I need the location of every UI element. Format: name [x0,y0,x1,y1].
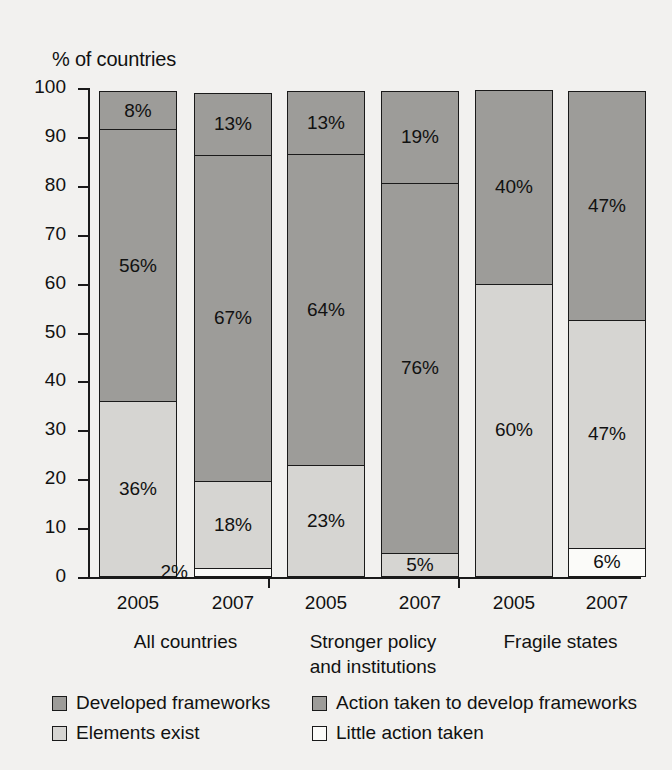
legend-row: Developed frameworks Action taken to dev… [52,692,652,722]
y-axis-tick-mark [78,577,89,579]
legend-item-developed-frameworks[interactable]: Developed frameworks [52,692,312,714]
bar-segment-label: 13% [195,113,271,135]
bar-all-countries-2007[interactable]: 2%18%67%13% [194,88,272,577]
y-axis-tick-mark [78,186,89,188]
bar-segment-label: 60% [476,419,552,441]
bar-segment-label: 76% [382,357,458,379]
legend-label: Little action taken [336,722,484,744]
x-axis-label-all-countries-2005: 2005 [99,592,177,614]
y-axis-tick-mark [78,137,89,139]
y-axis-tick-label: 50 [6,321,66,343]
legend-swatch-icon [312,696,327,711]
bar-segment-label: 8% [100,100,176,122]
bar-fragile-states-2005[interactable]: 60%40% [475,88,553,577]
plot-area: 36%56%8%2%18%67%13%23%64%13%5%76%19%60%4… [97,88,638,577]
y-axis-tick-label: 100 [6,76,66,98]
bar-segment-label: 47% [569,423,645,445]
bar-all-countries-2005[interactable]: 36%56%8% [99,88,177,577]
bar-segment[interactable]: 5% [381,553,459,577]
bar-segment[interactable]: 64% [287,153,365,466]
legend-item-little-action-taken[interactable]: Little action taken [312,722,484,744]
x-axis-tick-mark [458,579,460,588]
x-axis-group-label: Fragile states [451,629,671,654]
bar-segment-label: 67% [195,307,271,329]
x-axis-label-fragile-states-2007: 2007 [568,592,646,614]
x-axis-label-fragile-states-2005: 2005 [475,592,553,614]
bar-segment[interactable]: 36% [99,401,177,577]
x-axis-tick-mark [268,579,270,588]
y-axis-tick-mark [78,284,89,286]
legend-label: Developed frameworks [76,692,270,714]
bar-segment-label: 23% [288,510,364,532]
bar-segment-label: 13% [288,112,364,134]
y-axis-tick-mark [78,88,89,90]
bar-segment[interactable]: 23% [287,465,365,577]
y-axis-tick-label: 60 [6,272,66,294]
bar-segment-label: 18% [195,514,271,536]
bar-segment[interactable]: 6% [568,548,646,577]
bar-segment-label: 56% [100,255,176,277]
bar-segment[interactable]: 13% [194,93,272,157]
legend-item-elements-exist[interactable]: Elements exist [52,722,312,744]
legend-swatch-icon [52,726,67,741]
chart-figure: % of countries 0102030405060708090100 36… [0,0,672,770]
x-axis-label-stronger-policy-and-institutions-2005: 2005 [287,592,365,614]
y-axis-tick-label: 10 [6,516,66,538]
bar-segment[interactable]: 56% [99,129,177,403]
bar-segment[interactable]: 13% [287,91,365,155]
y-axis-tick-label: 90 [6,125,66,147]
chart-legend: Developed frameworks Action taken to dev… [52,692,652,752]
bar-segment[interactable]: 67% [194,155,272,483]
bar-segment-label: 5% [382,554,458,576]
legend-swatch-icon [52,696,67,711]
legend-item-action-taken[interactable]: Action taken to develop frameworks [312,692,637,714]
y-axis-tick-label: 30 [6,418,66,440]
y-axis-title: % of countries [52,48,176,71]
x-axis-label-stronger-policy-and-institutions-2007: 2007 [381,592,459,614]
bar-segment[interactable]: 47% [568,319,646,549]
x-axis-label-all-countries-2007: 2007 [194,592,272,614]
bar-segment-label: 36% [100,478,176,500]
bar-segment-label: 19% [382,126,458,148]
y-axis-tick-mark [78,381,89,383]
y-axis-tick-mark [78,479,89,481]
bar-stronger-policy-and-institutions-2005[interactable]: 23%64%13% [287,88,365,577]
bar-segment[interactable]: 60% [475,284,553,577]
legend-swatch-icon [312,726,327,741]
bar-segment[interactable]: 40% [475,90,553,286]
bar-segment-label: 40% [476,176,552,198]
y-axis-tick-label: 40 [6,369,66,391]
group-label-line: Fragile states [451,629,671,654]
y-axis-tick-label: 80 [6,174,66,196]
y-axis-tick-label: 70 [6,223,66,245]
bar-segment[interactable]: 8% [99,91,177,130]
y-axis-tick-mark [78,333,89,335]
bar-segment[interactable]: 47% [568,91,646,321]
bar-segment[interactable]: 76% [381,182,459,554]
y-axis-tick-mark [78,528,89,530]
group-label-line: and institutions [263,654,483,679]
y-axis-tick-label: 0 [6,565,66,587]
bar-segment[interactable]: 18% [194,481,272,569]
bar-stronger-policy-and-institutions-2007[interactable]: 5%76%19% [381,88,459,577]
legend-label: Action taken to develop frameworks [336,692,637,714]
bar-segment-label: 47% [569,195,645,217]
bar-segment[interactable]: 19% [381,91,459,184]
bar-segment-label: 6% [569,551,645,573]
y-axis-tick-mark [78,235,89,237]
y-axis-tick-label: 20 [6,467,66,489]
x-axis-line [88,577,641,579]
legend-label: Elements exist [76,722,200,744]
bar-fragile-states-2007[interactable]: 6%47%47% [568,88,646,577]
y-axis-tick-mark [78,430,89,432]
legend-row: Elements exist Little action taken [52,722,652,752]
bar-segment-label: 64% [288,299,364,321]
